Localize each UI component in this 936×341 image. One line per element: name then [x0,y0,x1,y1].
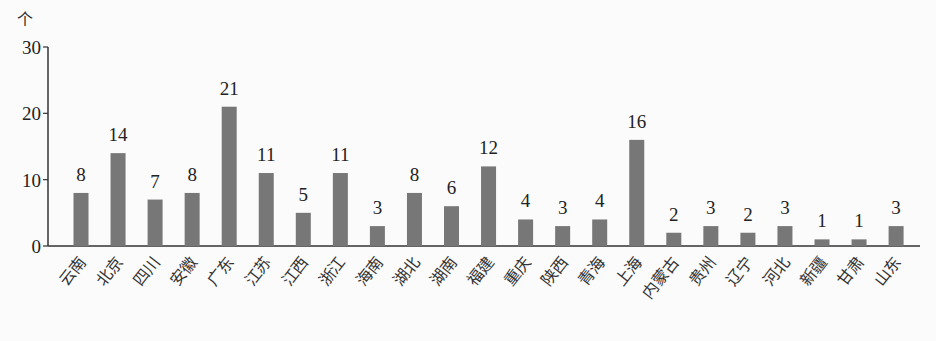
bar [407,193,422,246]
bar-value-label: 11 [257,144,275,165]
category-label: 江苏 [241,253,276,290]
bar-value-label: 12 [479,137,498,158]
y-tick-label: 20 [22,103,41,124]
bar-value-label: 11 [331,144,349,165]
bar [111,153,126,246]
bar [815,239,830,246]
bar-value-label: 4 [521,190,531,211]
y-tick-label: 10 [22,170,41,191]
category-label: 贵州 [685,253,720,290]
bar-value-label: 8 [76,164,86,185]
bar [296,213,311,246]
bar-value-label: 8 [187,164,197,185]
bar [629,140,644,246]
bar-value-label: 3 [373,197,383,218]
category-label: 四川 [130,253,165,290]
bar-value-label: 5 [299,184,309,205]
bar-value-label: 1 [817,210,827,231]
category-label: 安徽 [167,253,202,290]
category-label: 海南 [352,253,387,290]
category-label: 福建 [463,253,498,290]
category-label: 北京 [93,253,128,290]
bar [185,193,200,246]
bar [333,173,348,246]
bar [666,233,681,246]
bar [481,166,496,246]
category-label: 陕西 [537,253,572,290]
bar [148,200,163,246]
y-tick-label: 30 [22,37,41,58]
bar [222,107,237,246]
category-label: 辽宁 [722,253,757,290]
bar [777,226,792,246]
bar [703,226,718,246]
category-label: 甘肃 [834,253,869,290]
bar [74,193,89,246]
bar-value-label: 1 [854,210,864,231]
bar [852,239,867,246]
category-label: 山东 [871,253,906,290]
bar [259,173,274,246]
bar-value-label: 3 [891,197,901,218]
bar-chart: 0102030个 81478211151138612434162323113 云… [0,0,936,341]
bar-value-label: 21 [220,78,239,99]
bar [592,219,607,246]
bar-value-label: 6 [447,177,457,198]
bar-value-label: 2 [743,204,753,225]
category-label: 云南 [55,253,90,290]
bar [889,226,904,246]
y-axis-unit-label: 个 [17,10,33,29]
category-label: 青海 [574,253,609,290]
category-label: 浙江 [315,253,350,290]
category-label: 新疆 [796,253,831,290]
bar-value-label: 3 [780,197,790,218]
bar-value-label: 7 [150,171,160,192]
bar [370,226,385,246]
bars [74,107,904,246]
category-label: 重庆 [500,253,535,290]
bar-value-label: 8 [410,164,420,185]
bar-value-label: 16 [627,111,646,132]
bar [740,233,755,246]
bar-value-label: 4 [595,190,605,211]
y-tick-label: 0 [32,236,42,257]
bar-value-label: 3 [558,197,568,218]
bar [444,206,459,246]
bar-value-label: 3 [706,197,716,218]
x-axis-labels: 云南北京四川安徽广东江苏江西浙江海南湖北湖南福建重庆陕西青海上海内蒙古贵州辽宁河… [55,253,905,303]
bar [555,226,570,246]
category-label: 广东 [204,253,239,290]
category-label: 河北 [759,253,794,290]
bar-value-label: 14 [109,124,129,145]
category-label: 内蒙古 [638,253,683,303]
category-label: 江西 [278,253,313,290]
category-label: 湖北 [389,253,424,290]
category-label: 湖南 [426,253,461,290]
bar [518,219,533,246]
bar-value-label: 2 [669,204,679,225]
category-label: 上海 [611,253,646,290]
